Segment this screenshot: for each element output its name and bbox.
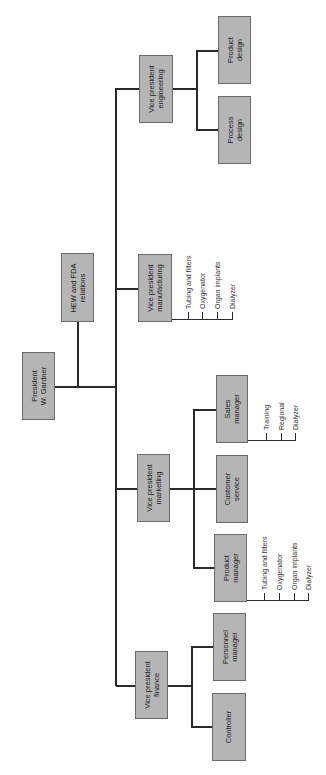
eng-to-process-design <box>196 129 218 131</box>
product-design-label: Product design <box>226 16 243 84</box>
pm-tick-2 <box>279 593 280 601</box>
mfg-item: Tubing and filters <box>185 256 192 309</box>
mkt-to-customer <box>193 488 216 490</box>
vp-fin-connector <box>116 685 135 687</box>
mfg-item: Oxygenator <box>199 273 206 309</box>
hew-fda-label: HEW and FDA relations <box>69 254 86 322</box>
customer-service-box: Customer service <box>216 455 248 523</box>
fin-stem <box>168 685 192 687</box>
mkt-to-sales <box>193 409 216 411</box>
pm-item: Organ implants <box>291 543 298 590</box>
fin-to-personnel <box>191 646 213 648</box>
vp-engineering-label: Vice president engineering <box>148 55 165 123</box>
sales-item: Training <box>263 405 270 430</box>
pm-item: Oxygenator <box>276 554 283 590</box>
vp-manufacturing-box: Vice president manufacturing <box>138 254 172 322</box>
mfg-item: Dialyzer <box>229 284 236 309</box>
eng-to-product-design <box>196 50 218 52</box>
president-label: President W. Gardner <box>30 352 47 420</box>
vp-finance-box: Vice president finance <box>135 651 168 719</box>
hew-connector <box>77 322 79 386</box>
pm-tick-3 <box>294 593 295 601</box>
mkt-to-product-mgr <box>193 567 214 569</box>
personnel-manager-label: Personnel manager <box>221 613 238 681</box>
vp-eng-connector <box>116 88 139 90</box>
vp-marketing-box: Vice president marketing <box>137 454 170 522</box>
sales-tick-3 <box>295 433 296 441</box>
sales-tick-1 <box>266 433 267 441</box>
sales-item-bar <box>248 440 296 441</box>
personnel-manager-box: Personnel manager <box>213 613 246 681</box>
sales-tick-2 <box>281 433 282 441</box>
vp-marketing-label: Vice president marketing <box>145 454 162 522</box>
product-design-box: Product design <box>218 16 251 84</box>
pm-item-bar <box>247 600 309 601</box>
process-design-label: Process design <box>226 96 243 164</box>
eng-bar <box>196 50 198 131</box>
vp-manufacturing-label: Vice president manufacturing <box>147 254 164 322</box>
sales-manager-label: Sales manager <box>224 375 241 443</box>
process-design-box: Process design <box>218 96 251 164</box>
controller-box: Controller <box>212 693 246 761</box>
mfg-item: Organ implants <box>214 262 221 309</box>
sales-item: Dialyzer <box>292 405 299 430</box>
controller-label: Controller <box>225 693 234 761</box>
sales-manager-box: Sales manager <box>216 375 248 443</box>
pm-item: Dialyzer <box>305 565 312 590</box>
president-connector <box>55 386 116 388</box>
mkt-stem <box>170 488 194 490</box>
mfg-item-bar-ext <box>172 319 233 320</box>
vp-mfg-connector <box>116 288 138 290</box>
vp-engineering-box: Vice president engineering <box>139 55 173 123</box>
eng-stem <box>173 88 197 90</box>
president-box: President W. Gardner <box>22 352 55 420</box>
pm-tick-4 <box>308 593 309 601</box>
pm-item: Tubing and filters <box>261 537 268 590</box>
product-manager-box: Product manager <box>214 534 247 602</box>
sales-item: Regional <box>278 402 285 430</box>
fin-to-controller <box>191 726 212 728</box>
fin-bar <box>191 646 193 728</box>
product-manager-label: Product manager <box>222 534 239 602</box>
pm-tick-1 <box>264 593 265 601</box>
customer-service-label: Customer service <box>224 455 241 523</box>
vp-finance-label: Vice president finance <box>143 651 160 719</box>
hew-fda-box: HEW and FDA relations <box>61 253 94 322</box>
vp-mkt-connector <box>116 488 137 490</box>
